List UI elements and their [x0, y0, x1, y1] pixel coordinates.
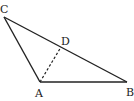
label-d: D — [61, 35, 70, 48]
label-a: A — [34, 87, 44, 100]
label-c: C — [0, 3, 8, 16]
segment-ad-dashed — [40, 47, 61, 82]
label-b: B — [126, 86, 134, 99]
triangle-diagram: A B C D — [0, 0, 134, 101]
